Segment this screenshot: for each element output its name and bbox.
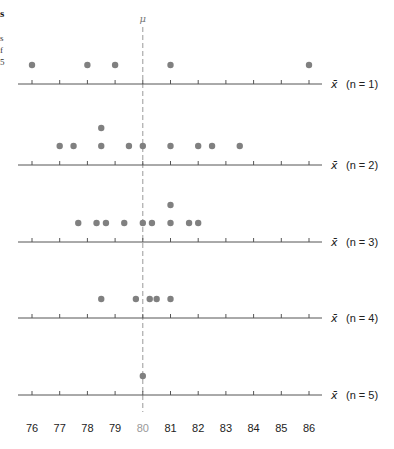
sampling-distribution-chart: μ x̄(n = 1)x̄(n = 2)x̄(n = 3)x̄(n = 4)x̄… [0, 0, 394, 449]
data-point [140, 220, 146, 226]
mean-line: μ [140, 13, 147, 412]
xbar-label: x̄ [330, 389, 338, 402]
tick-label-83: 83 [220, 422, 232, 434]
xbar-label: x̄ [330, 78, 338, 91]
row-n-4: x̄(n = 4) [18, 296, 378, 325]
xbar-label: x̄ [330, 159, 338, 172]
sample-size-label: (n = 3) [346, 236, 378, 248]
tick-label-78: 78 [81, 422, 93, 434]
mu-label: μ [140, 13, 147, 24]
tick-label-76: 76 [26, 422, 38, 434]
data-point [195, 143, 201, 149]
data-point [167, 202, 173, 208]
data-point [149, 220, 155, 226]
data-point [57, 143, 63, 149]
data-point [140, 373, 146, 379]
data-point [237, 143, 243, 149]
data-point [70, 143, 76, 149]
data-point [140, 143, 146, 149]
data-point [167, 143, 173, 149]
tick-label-80: 80 [137, 422, 149, 434]
sample-size-label: (n = 1) [346, 78, 378, 90]
tick-label-81: 81 [164, 422, 176, 434]
x-tick-labels: 7677787980818283848586 [26, 422, 315, 434]
data-point [98, 143, 104, 149]
row-n-1: x̄(n = 1) [18, 62, 378, 91]
data-point [186, 220, 192, 226]
data-point [209, 143, 215, 149]
tick-label-82: 82 [192, 422, 204, 434]
data-point [167, 296, 173, 302]
tick-label-84: 84 [247, 422, 259, 434]
data-point [103, 220, 109, 226]
data-point [98, 296, 104, 302]
data-point [195, 220, 201, 226]
xbar-label: x̄ [330, 236, 338, 249]
tick-label-86: 86 [303, 422, 315, 434]
data-point [167, 62, 173, 68]
data-point [167, 220, 173, 226]
tick-label-79: 79 [109, 422, 121, 434]
data-point [112, 62, 118, 68]
chart-rows: x̄(n = 1)x̄(n = 2)x̄(n = 3)x̄(n = 4)x̄(n… [18, 62, 378, 402]
row-n-2: x̄(n = 2) [18, 125, 378, 172]
data-point [306, 62, 312, 68]
data-point [75, 220, 81, 226]
sample-size-label: (n = 2) [346, 159, 378, 171]
data-point [93, 220, 99, 226]
sample-size-label: (n = 5) [346, 389, 378, 401]
data-point [133, 296, 139, 302]
data-point [84, 62, 90, 68]
xbar-label: x̄ [330, 312, 338, 325]
tick-label-85: 85 [275, 422, 287, 434]
row-n-5: x̄(n = 5) [18, 373, 378, 402]
sample-size-label: (n = 4) [346, 312, 378, 324]
row-n-3: x̄(n = 3) [18, 202, 378, 249]
data-point [126, 143, 132, 149]
data-point [121, 220, 127, 226]
data-point [29, 62, 35, 68]
data-point [98, 125, 104, 131]
data-point [147, 296, 153, 302]
data-point [153, 296, 159, 302]
tick-label-77: 77 [54, 422, 66, 434]
